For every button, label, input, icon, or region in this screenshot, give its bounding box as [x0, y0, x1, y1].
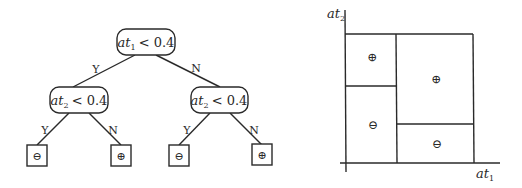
edge-label-right-no: N [249, 124, 259, 137]
right-condition: at2< 0.4 [191, 93, 248, 110]
edge-label-root-no: N [191, 62, 201, 75]
left-condition: at2< 0.4 [51, 93, 108, 110]
root-condition: at1< 0.4 [118, 35, 175, 52]
edge-root-right [156, 55, 220, 87]
right-border [473, 34, 474, 163]
leaf-3-symbol: ⊖ [174, 150, 183, 163]
figure: at1< 0.4 at2< 0.4 at2< 0.4 Y N Y N Y N ⊖… [0, 0, 522, 188]
y-axis-label: at2 [327, 6, 345, 23]
edge-label-left-yes: Y [40, 124, 49, 137]
leaf-2-symbol: ⊕ [116, 150, 125, 163]
region-bottom-right-symbol: ⊖ [432, 137, 442, 151]
region-top-left-symbol: ⊕ [367, 50, 377, 64]
edge-root-left [73, 55, 135, 87]
leaf-1-symbol: ⊖ [32, 150, 41, 163]
region-bottom-left-symbol: ⊖ [368, 118, 378, 132]
edge-label-right-yes: Y [182, 124, 191, 137]
leaf-4-symbol: ⊕ [257, 149, 266, 162]
split-at1 [396, 34, 397, 163]
region-top-right-symbol: ⊕ [431, 72, 441, 86]
edge-label-root-yes: Y [91, 63, 100, 76]
partition-plot [340, 10, 500, 172]
x-axis-label: at1 [476, 166, 494, 183]
edge-label-left-no: N [108, 124, 118, 137]
